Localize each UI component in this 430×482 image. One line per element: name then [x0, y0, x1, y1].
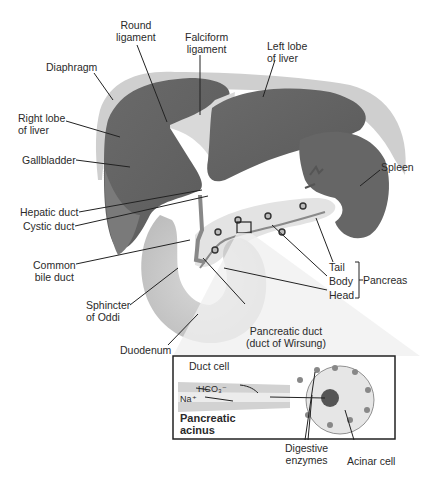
label-spleen: Spleen: [381, 161, 414, 173]
label-common-bile-duct: Common bile duct: [33, 259, 76, 283]
label-duodenum: Duodenum: [120, 344, 171, 356]
label-pancreas-tail: Tail: [329, 261, 345, 273]
label-sphincter-of-oddi: Sphincter of Oddi: [86, 299, 130, 323]
label-acinar-cell: Acinar cell: [347, 455, 395, 467]
label-gallbladder: Gallbladder: [22, 154, 76, 166]
label-diaphragm: Diaphragm: [46, 61, 97, 73]
label-hco3: HCO₃⁻: [198, 383, 227, 395]
label-round-ligament: Round ligament: [116, 19, 156, 43]
label-digestive-enzymes: Digestive enzymes: [285, 442, 328, 466]
label-cystic-duct: Cystic duct: [23, 220, 74, 232]
label-pancreas-head: Head: [329, 289, 354, 301]
label-pancreatic-acinus: Pancreatic acinus: [180, 412, 236, 436]
label-na: Na⁺: [180, 393, 197, 405]
label-duct-cell: Duct cell: [189, 360, 229, 372]
label-hepatic-duct: Hepatic duct: [20, 206, 78, 218]
label-pancreas-body: Body: [329, 275, 353, 287]
label-left-lobe-of-liver: Left lobe of liver: [267, 40, 307, 64]
label-pancreas: Pancreas: [363, 274, 407, 286]
label-right-lobe-of-liver: Right lobe of liver: [18, 112, 65, 136]
label-falciform-ligament: Falciform ligament: [185, 31, 228, 55]
label-pancreatic-duct: Pancreatic duct (duct of Wirsung): [246, 325, 326, 349]
